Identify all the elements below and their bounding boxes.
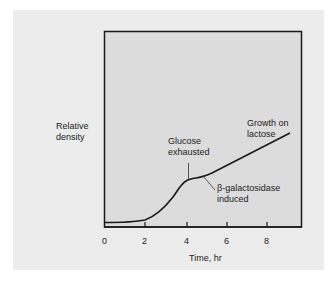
annotation-beta-galactosidase: β-galactosidase induced bbox=[217, 183, 280, 205]
glucose-line2: exhausted bbox=[168, 147, 210, 158]
x-tick-label-0: 0 bbox=[102, 236, 107, 247]
y-axis-label: Relative density bbox=[56, 121, 89, 143]
y-axis-label-line2: density bbox=[56, 132, 89, 143]
annotation-glucose-exhausted: Glucose exhausted bbox=[168, 136, 210, 158]
beta-line2: induced bbox=[217, 194, 280, 205]
x-tick-label-8: 8 bbox=[264, 236, 269, 247]
annotation-growth-on-lactose: Growth on lactose bbox=[247, 118, 289, 140]
chart-plot bbox=[0, 0, 333, 290]
y-axis-label-line1: Relative bbox=[56, 121, 89, 132]
x-tick-label-6: 6 bbox=[224, 236, 229, 247]
x-axis-label: Time, hr bbox=[189, 253, 222, 264]
growth-line2: lactose bbox=[247, 129, 289, 140]
x-tick-label-2: 2 bbox=[142, 236, 147, 247]
glucose-line1: Glucose bbox=[168, 136, 210, 147]
x-tick-label-4: 4 bbox=[184, 236, 189, 247]
growth-line1: Growth on bbox=[247, 118, 289, 129]
beta-line1: β-galactosidase bbox=[217, 183, 280, 194]
